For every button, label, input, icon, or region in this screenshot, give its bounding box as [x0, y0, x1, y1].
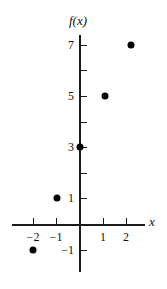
x-tick-neg2 [33, 218, 34, 224]
y-tick-label-1: 1 [68, 192, 74, 204]
scatter-plot-figure: f(x) x 7 5 3 1 −1 −2 −1 1 2 [0, 0, 167, 289]
x-tick-2 [126, 218, 127, 224]
y-tick-7 [81, 45, 87, 46]
x-tick-label-neg2: −2 [27, 231, 40, 243]
x-tick-label-1: 1 [100, 231, 106, 243]
data-point [77, 144, 84, 151]
y-tick-1 [81, 198, 87, 199]
y-tick-label-3: 3 [68, 141, 74, 153]
y-tick-6 [81, 70, 87, 71]
data-point [102, 93, 109, 100]
y-tick-4 [81, 122, 87, 123]
y-tick-5 [81, 96, 87, 97]
y-tick-label-5: 5 [68, 90, 74, 102]
y-tick-label-neg1: −1 [61, 244, 74, 256]
x-axis-label: x [149, 215, 155, 228]
data-point [128, 42, 135, 49]
y-tick-neg1 [81, 250, 87, 251]
x-tick-label-neg1: −1 [50, 231, 63, 243]
y-tick-label-7: 7 [68, 39, 74, 51]
data-point [30, 247, 37, 254]
data-point [54, 195, 61, 202]
y-axis-label: f(x) [69, 14, 87, 27]
y-tick-2 [81, 173, 87, 174]
x-tick-1 [103, 218, 104, 224]
x-tick-label-2: 2 [123, 231, 129, 243]
x-tick-neg1 [56, 218, 57, 224]
